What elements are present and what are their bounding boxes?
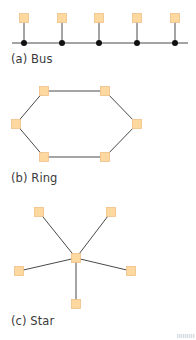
ring-link-line	[16, 124, 44, 157]
star-node	[35, 208, 44, 217]
star-node	[127, 267, 136, 276]
ring-node	[133, 120, 142, 129]
star-node	[15, 267, 24, 276]
bus-tap-dot	[96, 40, 102, 46]
star-label: (c) Star	[11, 314, 54, 328]
ring-node	[40, 153, 49, 162]
bus-tap-dot	[21, 40, 27, 46]
bus-node	[20, 14, 29, 23]
star-node	[72, 300, 81, 309]
ring-node	[101, 153, 110, 162]
bus-node	[133, 14, 142, 23]
star-spoke-line	[76, 258, 131, 271]
star-hub-node	[72, 254, 81, 263]
bus-node	[58, 14, 67, 23]
ring-node	[40, 87, 49, 96]
star-node	[107, 208, 116, 217]
bus-tap-dot	[134, 40, 140, 46]
bus-topology	[12, 14, 188, 47]
star-spoke-line	[76, 212, 111, 258]
ring-label: (b) Ring	[11, 171, 58, 185]
star-spoke-line	[39, 212, 76, 258]
ring-link-line	[105, 91, 137, 124]
publisher-logo-icon	[177, 334, 195, 338]
bus-node	[95, 14, 104, 23]
bus-label: (a) Bus	[11, 52, 53, 66]
network-topology-diagram	[0, 0, 196, 340]
ring-node	[101, 87, 110, 96]
bus-tap-dot	[59, 40, 65, 46]
ring-topology	[12, 87, 142, 162]
star-spoke-line	[19, 258, 76, 271]
ring-node	[12, 120, 21, 129]
bus-node	[171, 14, 180, 23]
bus-tap-dot	[172, 40, 178, 46]
ring-link-line	[16, 91, 44, 124]
star-topology	[15, 208, 136, 309]
ring-link-line	[105, 124, 137, 157]
